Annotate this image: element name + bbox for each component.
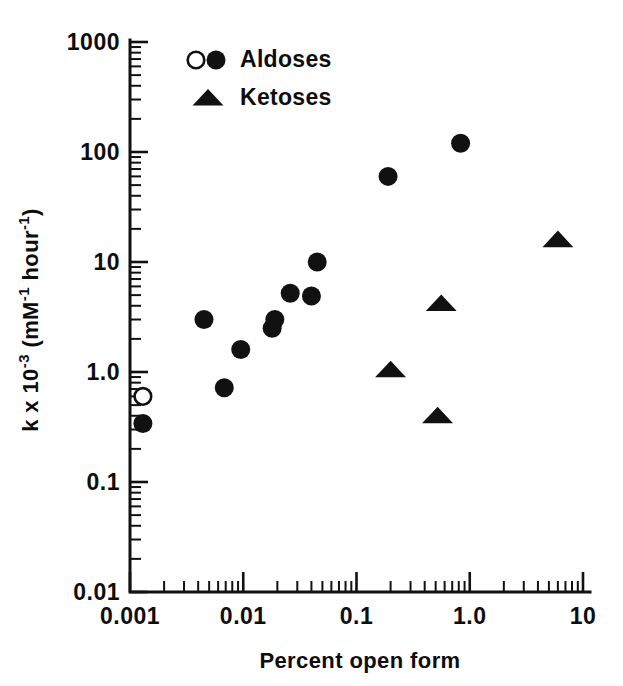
x-axis-tick-labels: 0.0010.010.11.010 xyxy=(100,603,596,629)
y-tick-label: 1.0 xyxy=(87,359,120,385)
data-point-circle-open xyxy=(135,388,152,405)
y-axis-title: k x 10-3 (mM-1 hour-1) xyxy=(15,208,43,432)
data-point-circle-filled xyxy=(302,287,321,306)
legend-item-aldoses: Aldoses xyxy=(188,46,332,72)
chart-canvas: 1000100101.00.10.01 0.0010.010.11.010 Pe… xyxy=(0,0,623,686)
data-point-circle-filled xyxy=(308,253,327,272)
data-point-circle-filled xyxy=(133,414,152,433)
legend-label: Aldoses xyxy=(240,46,332,72)
data-point-circle-filled xyxy=(231,340,250,359)
data-point-triangle xyxy=(426,294,457,311)
legend: AldosesKetoses xyxy=(188,46,332,110)
y-axis-tick-labels: 1000100101.00.10.01 xyxy=(67,29,120,605)
x-tick-label: 0.001 xyxy=(100,603,160,629)
data-point-triangle xyxy=(542,231,573,248)
series-aldoses-open xyxy=(135,388,152,405)
y-tick-label: 0.01 xyxy=(73,579,120,605)
series-aldoses xyxy=(133,134,470,433)
y-tick-label: 10 xyxy=(93,249,120,275)
svg-text:k x 10-3 (mM-1 hour-1): k x 10-3 (mM-1 hour-1) xyxy=(15,208,43,432)
data-point-circle-filled xyxy=(215,378,234,397)
legend-item-ketoses: Ketoses xyxy=(193,84,332,110)
y-axis-title-exp2: -1 xyxy=(15,287,32,301)
scatter-plot-figure: 1000100101.00.10.01 0.0010.010.11.010 Pe… xyxy=(0,0,623,686)
data-point-circle-filled xyxy=(207,51,226,70)
y-tick-label: 0.1 xyxy=(87,469,120,495)
x-axis-ticks xyxy=(130,572,583,592)
data-point-triangle xyxy=(422,407,453,424)
y-tick-label: 1000 xyxy=(67,29,120,55)
data-point-circle-filled xyxy=(194,310,213,329)
y-tick-label: 100 xyxy=(80,139,120,165)
x-tick-label: 10 xyxy=(570,603,597,629)
y-axis-ticks xyxy=(130,42,148,592)
data-point-circle-filled xyxy=(281,284,300,303)
y-axis-title-mid: (mM xyxy=(18,301,43,354)
series-ketoses xyxy=(375,231,573,424)
x-tick-label: 1.0 xyxy=(453,603,486,629)
y-axis-title-lead: k x 10 xyxy=(18,368,43,432)
x-tick-label: 0.01 xyxy=(220,603,267,629)
data-point-triangle xyxy=(375,361,406,378)
data-point-circle-filled xyxy=(265,310,284,329)
data-point-circle-filled xyxy=(379,167,398,186)
y-axis-title-tail: ) xyxy=(18,208,43,216)
legend-label: Ketoses xyxy=(240,84,332,110)
x-axis-title: Percent open form xyxy=(259,648,460,673)
data-point-layer xyxy=(133,134,573,433)
y-axis-title-exp1: -3 xyxy=(15,354,32,368)
data-point-triangle xyxy=(193,89,224,106)
data-point-circle-filled xyxy=(451,134,470,153)
y-axis-title-exp3: -1 xyxy=(15,216,32,230)
y-axis-title-mid2: hour xyxy=(18,230,43,287)
x-tick-label: 0.1 xyxy=(340,603,373,629)
data-point-circle-open xyxy=(188,52,205,69)
